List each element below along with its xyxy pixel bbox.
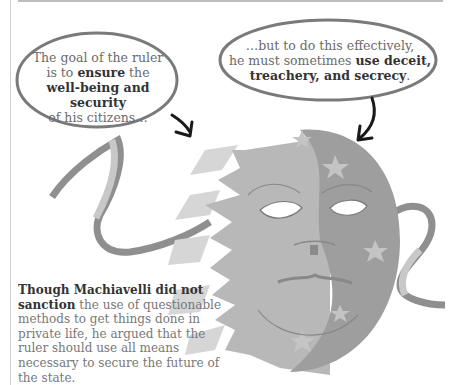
right-line-3: treachery, and secrecy. — [226, 68, 434, 83]
right-line-1: …but to do this effectively, — [226, 38, 434, 53]
arrow-icons — [172, 98, 374, 140]
emphasis: use deceit, — [356, 53, 432, 68]
left-line-1: The goal of the ruler — [22, 50, 174, 65]
speech-text-right: …but to do this effectively, he must som… — [226, 38, 434, 83]
emphasis: ensure — [77, 65, 125, 80]
speech-text-left: The goal of the ruler is to ensure the w… — [22, 50, 174, 125]
right-line-2: he must sometimes use deceit, — [226, 53, 434, 68]
left-ribbon — [52, 140, 210, 252]
caption-text: Though Machiavelli did not sanction the … — [18, 283, 233, 385]
left-line-3: well-being and security — [22, 80, 174, 110]
left-line-4: of his citizens… — [22, 110, 174, 125]
left-line-2: is to ensure the — [22, 65, 174, 80]
